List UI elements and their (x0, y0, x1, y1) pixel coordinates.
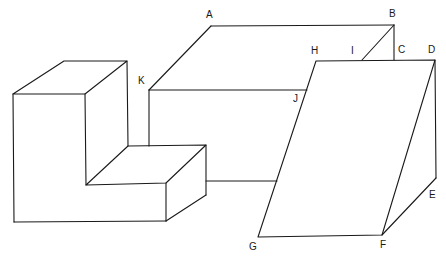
l-block-step-top-face (86, 145, 206, 185)
l-block-inner-vertical (85, 94, 86, 185)
label-F: F (380, 239, 386, 250)
label-K: K (138, 75, 145, 86)
l-block-bottom-diagonal (166, 195, 206, 221)
l-block-left-edge (13, 94, 14, 222)
label-C: C (398, 44, 405, 55)
rectangular-box (149, 25, 394, 181)
l-shaped-block (13, 61, 206, 222)
l-block-top-face (13, 61, 127, 94)
edge-B-I (362, 25, 394, 60)
panel-parallelogram-HDFG (258, 60, 435, 237)
diagram-canvas: A B C D E F G H I J K (0, 0, 446, 260)
label-E: E (429, 189, 436, 200)
vertex-labels: A B C D E F G H I J K (138, 8, 436, 252)
perspective-drawing: A B C D E F G H I J K (0, 0, 446, 260)
label-H: H (311, 45, 318, 56)
edge-A-B (211, 25, 394, 26)
label-J: J (293, 93, 298, 104)
label-G: G (249, 241, 257, 252)
label-I: I (351, 45, 354, 56)
l-block-bottom-edge (14, 221, 166, 222)
label-B: B (389, 8, 396, 19)
label-A: A (206, 9, 213, 20)
edge-D-E (435, 60, 436, 178)
label-D: D (428, 44, 435, 55)
slanted-panel (258, 60, 436, 237)
l-block-back-vertical (127, 61, 128, 146)
edge-K-A (149, 26, 211, 90)
